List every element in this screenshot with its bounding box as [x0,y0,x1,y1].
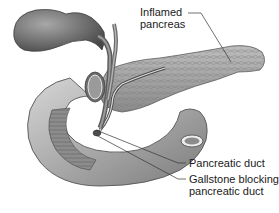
anatomy-figure: Inflamed pancreas Pancreatic duct Gallst… [0,0,279,213]
label-pancreatic-duct: Pancreatic duct [189,157,265,169]
label-gallstone-blocking: Gallstone blocking pancreatic duct [189,173,279,197]
label-inflamed-pancreas-line1: Inflamed [140,6,185,18]
gallstone [93,130,101,136]
label-gallstone-line1: Gallstone blocking [189,173,279,185]
label-inflamed-pancreas: Inflamed pancreas [140,6,185,30]
label-inflamed-pancreas-line2: pancreas [140,18,185,30]
label-gallstone-line2: pancreatic duct [189,185,279,197]
